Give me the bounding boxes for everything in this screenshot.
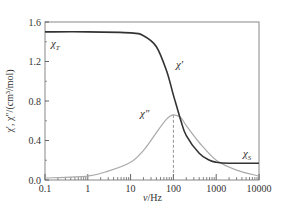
y-tick-label: 1.6 xyxy=(29,17,42,28)
ac-susceptibility-chart: 0.11101001000100000.00.40.81.21.6 χT χ′ … xyxy=(0,0,285,219)
y-tick-label: 0.0 xyxy=(29,175,42,186)
x-tick-label: 1000 xyxy=(206,183,226,194)
y-axis-title: χ′, χ″/(cm³/mol) xyxy=(4,69,16,133)
chi-prime-label: χ′ xyxy=(175,58,184,70)
plot-frame xyxy=(45,22,259,180)
chi-s-label: χS xyxy=(242,147,252,162)
chi-t-label: χT xyxy=(50,37,61,52)
y-tick-label: 0.8 xyxy=(29,96,42,107)
x-axis-title: ν/Hz xyxy=(143,192,162,203)
curves xyxy=(45,32,259,180)
chi-prime-curve xyxy=(45,32,259,163)
chi-double-prime-label: χ″ xyxy=(139,107,150,119)
axes: 0.11101001000100000.00.40.81.21.6 xyxy=(29,17,272,195)
x-tick-label: 10000 xyxy=(247,183,272,194)
y-tick-label: 0.4 xyxy=(29,135,42,146)
labels: χT χ′ χ″ χS ν/Hz χ′, χ″/(cm³/mol) xyxy=(4,37,252,203)
x-tick-label: 1 xyxy=(85,183,90,194)
x-tick-label: 10 xyxy=(126,183,136,194)
chi-double-prime-curve xyxy=(45,115,259,178)
y-tick-label: 1.2 xyxy=(29,56,42,67)
x-tick-label: 100 xyxy=(166,183,181,194)
